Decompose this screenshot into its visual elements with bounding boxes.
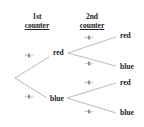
node-blue-red: red [120,78,131,87]
prob-first-red: 35 [25,53,34,59]
node-red-blue: blue [120,62,134,71]
node-red-red: red [120,31,131,40]
header-second-counter: 2nd counter [75,12,109,30]
node-first-red: red [53,48,64,57]
node-blue-blue: blue [120,108,134,117]
prob-red-red: 35 [85,35,94,41]
prob-red-blue: 25 [85,61,94,67]
header-first-counter: 1st counter [22,12,52,30]
branch-first-red [15,57,49,78]
node-first-blue: blue [50,94,64,103]
prob-blue-blue: 25 [85,109,94,115]
prob-first-blue: 25 [25,94,34,100]
prob-blue-red: 35 [85,80,94,86]
